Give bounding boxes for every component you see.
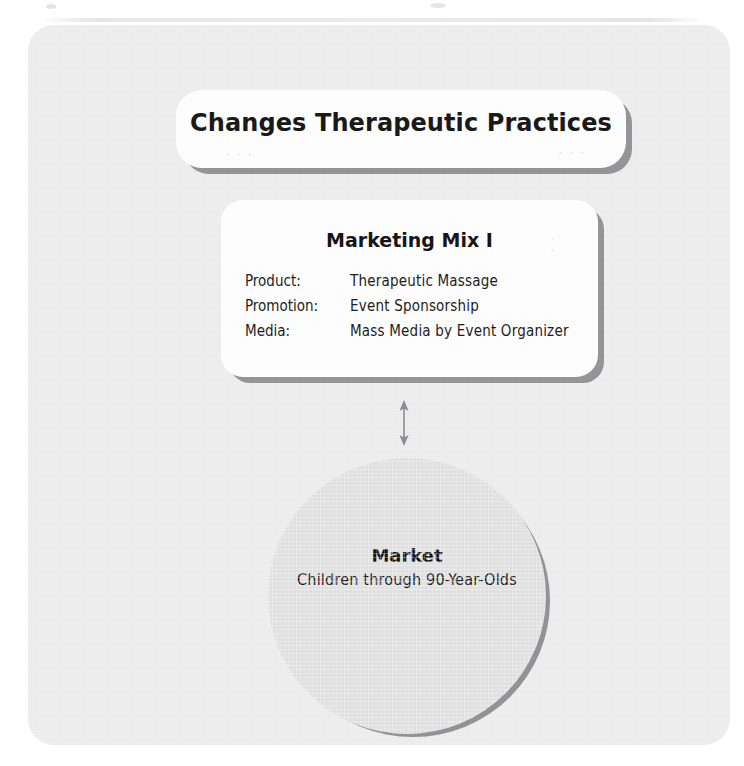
marketing-mix-value-promotion: Event Sponsorship — [350, 297, 479, 315]
marketing-mix-label-product: Product: — [245, 272, 350, 290]
scan-smudge-right: · · · — [559, 146, 586, 159]
marketing-mix-value-media: Mass Media by Event Organizer — [350, 322, 569, 340]
market-circle-title: Market — [268, 544, 546, 568]
scan-artifact-dot-left — [46, 4, 56, 9]
marketing-mix-row: Promotion: Event Sponsorship — [245, 297, 584, 322]
marketing-mix-heading: Marketing Mix I — [221, 229, 598, 251]
marketing-mix-card[interactable]: Marketing Mix I ·· Product: Therapeutic … — [221, 200, 598, 377]
marketing-mix-row: Product: Therapeutic Massage — [245, 272, 584, 297]
scan-smudge-mix: ·· — [551, 234, 556, 256]
market-circle-text: Market Children through 90-Year-Olds — [268, 544, 546, 592]
scan-smudge-left: · · · — [226, 148, 253, 161]
double-arrow-icon — [392, 399, 416, 447]
marketing-mix-row: Media: Mass Media by Event Organizer — [245, 322, 584, 347]
diagram-canvas: Changes Therapeutic Practices · · · · · … — [0, 0, 744, 766]
title-card[interactable]: Changes Therapeutic Practices · · · · · … — [176, 90, 626, 168]
market-circle-subtitle: Children through 90-Year-Olds — [268, 568, 546, 592]
title-card-label: Changes Therapeutic Practices — [176, 109, 626, 137]
scan-artifact-strip — [40, 18, 704, 22]
marketing-mix-value-product: Therapeutic Massage — [350, 272, 498, 290]
diagram-panel: Changes Therapeutic Practices · · · · · … — [28, 25, 730, 745]
marketing-mix-label-media: Media: — [245, 322, 350, 340]
scan-artifact-dot-right — [430, 3, 446, 8]
marketing-mix-rows: Product: Therapeutic Massage Promotion: … — [245, 272, 584, 347]
market-circle[interactable]: Market Children through 90-Year-Olds — [268, 458, 546, 734]
marketing-mix-label-promotion: Promotion: — [245, 297, 350, 315]
